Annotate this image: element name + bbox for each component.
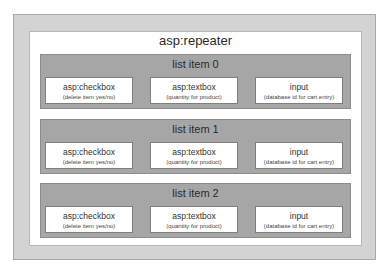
cell-desc: (quantity for product) <box>151 93 237 101</box>
textbox-cell: asp:textbox (quantity for product) <box>150 142 238 169</box>
cell-name: input <box>256 211 342 221</box>
cell-desc: (delete item yes/no) <box>46 158 132 166</box>
cell-name: asp:textbox <box>151 147 237 157</box>
cell-desc: (database id for cart entry) <box>256 158 342 166</box>
cell-desc: (quantity for product) <box>151 222 237 230</box>
textbox-cell: asp:textbox (quantity for product) <box>150 77 238 104</box>
textbox-cell: asp:textbox (quantity for product) <box>150 206 238 233</box>
cell-name: input <box>256 147 342 157</box>
cell-desc: (database id for cart entry) <box>256 222 342 230</box>
input-cell: input (database id for cart entry) <box>255 142 343 169</box>
input-cell: input (database id for cart entry) <box>255 206 343 233</box>
cell-desc: (quantity for product) <box>151 158 237 166</box>
checkbox-cell: asp:checkbox (delete item yes/no) <box>45 77 133 104</box>
repeater-title: asp:repeater <box>29 33 362 48</box>
cell-desc: (delete item yes/no) <box>46 222 132 230</box>
list-item-1: list item 1 asp:checkbox (delete item ye… <box>40 119 351 174</box>
list-item-label: list item 1 <box>41 123 350 135</box>
cell-desc: (database id for cart entry) <box>256 93 342 101</box>
cell-name: asp:checkbox <box>46 211 132 221</box>
cell-name: asp:checkbox <box>46 82 132 92</box>
checkbox-cell: asp:checkbox (delete item yes/no) <box>45 142 133 169</box>
cell-desc: (delete item yes/no) <box>46 93 132 101</box>
cell-name: asp:textbox <box>151 211 237 221</box>
list-item-2: list item 2 asp:checkbox (delete item ye… <box>40 183 351 238</box>
cell-name: asp:textbox <box>151 82 237 92</box>
cell-name: asp:checkbox <box>46 147 132 157</box>
list-item-0: list item 0 asp:checkbox (delete item ye… <box>40 54 351 109</box>
list-item-label: list item 2 <box>41 187 350 199</box>
cell-name: input <box>256 82 342 92</box>
input-cell: input (database id for cart entry) <box>255 77 343 104</box>
checkbox-cell: asp:checkbox (delete item yes/no) <box>45 206 133 233</box>
list-item-label: list item 0 <box>41 58 350 70</box>
